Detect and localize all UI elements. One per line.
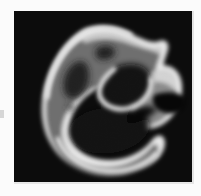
plate-edge-right [192, 11, 194, 184]
figure-page [0, 0, 201, 196]
specimen-svg [14, 11, 192, 182]
margin-tick-mark [0, 110, 4, 118]
noise-overlay [14, 11, 192, 182]
figure-plate [14, 11, 192, 182]
specimen-image [14, 11, 192, 182]
plate-edge-bottom [14, 182, 194, 184]
